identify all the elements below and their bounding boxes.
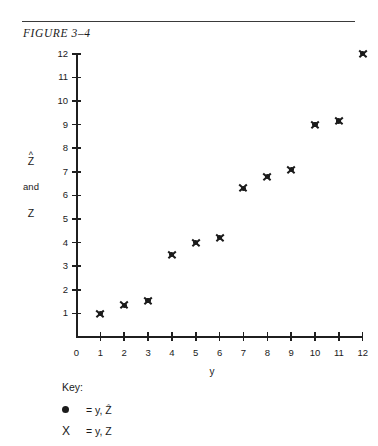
data-point	[96, 309, 105, 318]
legend-title: Key:	[62, 381, 112, 393]
x-cross-marker-icon	[263, 172, 272, 181]
data-point	[263, 172, 272, 181]
y-tick	[72, 100, 81, 102]
y-tick	[72, 265, 81, 267]
x-cross-marker-icon	[358, 49, 367, 58]
x-tick	[219, 332, 221, 341]
y-tick	[72, 77, 81, 79]
x-tick	[171, 332, 173, 341]
y-tick-label: 4	[46, 237, 68, 248]
legend-key: Key: = y, Ẑ X = y, Z	[62, 381, 112, 443]
scatter-plot: 123456789101112 0123456789101112 ^Z and …	[0, 0, 378, 446]
x-tick	[243, 332, 245, 341]
data-point	[311, 120, 320, 129]
x-cross-marker-icon	[215, 233, 224, 242]
y-tick-label: 10	[46, 95, 68, 106]
y-tick	[72, 242, 81, 244]
x-tick-label: 11	[329, 347, 349, 358]
y-axis-title-z: Z	[14, 207, 48, 219]
x-cross-marker-icon	[120, 301, 129, 310]
y-tick	[72, 171, 81, 173]
x-cross-marker-icon	[167, 250, 176, 259]
legend-entry-z-label: = y, Z	[86, 425, 112, 437]
data-point	[287, 165, 296, 174]
x-tick-label: 2	[114, 347, 134, 358]
x-tick	[362, 332, 364, 341]
x-tick-label: 4	[162, 347, 182, 358]
y-tick-label: 12	[46, 48, 68, 59]
data-point	[334, 117, 343, 126]
x-axis-title: y	[200, 366, 224, 377]
y-tick-label: 7	[46, 166, 68, 177]
data-point	[167, 250, 176, 259]
y-tick	[72, 218, 81, 220]
filled-circle-icon	[62, 406, 82, 413]
data-point	[358, 49, 367, 58]
x-tick-label: 0	[67, 347, 87, 358]
y-tick	[72, 53, 81, 55]
x-cross-marker-icon	[287, 165, 296, 174]
data-point	[191, 238, 200, 247]
x-cross-marker-icon	[334, 117, 343, 126]
data-point	[144, 296, 153, 305]
x-cross-icon: X	[62, 425, 82, 437]
x-tick-label: 8	[257, 347, 277, 358]
y-axis-title-and: and	[14, 181, 48, 192]
y-tick-label: 8	[46, 142, 68, 153]
data-point	[120, 301, 129, 310]
x-cross-marker-icon	[144, 296, 153, 305]
data-point	[239, 184, 248, 193]
x-tick	[267, 332, 269, 341]
x-tick	[290, 332, 292, 341]
x-tick-label: 9	[281, 347, 301, 358]
x-tick-label: 10	[305, 347, 325, 358]
x-tick-label: 5	[186, 347, 206, 358]
y-tick	[72, 147, 81, 149]
y-tick-label: 6	[46, 189, 68, 200]
x-tick	[123, 332, 125, 341]
hat-accent-icon: ^	[29, 151, 33, 160]
figure-container: FIGURE 3–4 123456789101112 0123456789101…	[0, 0, 378, 446]
x-tick-label: 3	[138, 347, 158, 358]
y-tick-label: 1	[46, 307, 68, 318]
x-cross-marker-icon	[311, 120, 320, 129]
y-tick-label: 5	[46, 213, 68, 224]
x-tick-label: 1	[90, 347, 110, 358]
data-point	[215, 233, 224, 242]
x-cross-marker-icon	[96, 309, 105, 318]
y-tick-label: 11	[46, 71, 68, 82]
x-tick	[195, 332, 197, 341]
y-tick-label: 9	[46, 119, 68, 130]
y-tick-label: 3	[46, 260, 68, 271]
x-tick-label: 7	[233, 347, 253, 358]
x-cross-marker-icon	[191, 238, 200, 247]
legend-entry-zhat: = y, Ẑ	[62, 401, 112, 418]
x-tick	[100, 332, 102, 341]
x-tick-label: 6	[210, 347, 230, 358]
x-tick	[338, 332, 340, 341]
y-tick	[72, 124, 81, 126]
legend-entry-z: X = y, Z	[62, 422, 112, 439]
y-tick	[72, 195, 81, 197]
x-cross-marker-icon	[239, 184, 248, 193]
x-tick	[147, 332, 149, 341]
y-tick-label: 2	[46, 284, 68, 295]
legend-entry-zhat-label: = y, Ẑ	[86, 404, 112, 416]
x-tick	[314, 332, 316, 341]
y-tick	[72, 313, 81, 315]
y-tick	[72, 289, 81, 291]
y-axis-title-zhat: ^Z	[14, 155, 48, 167]
x-tick-label: 12	[353, 347, 373, 358]
